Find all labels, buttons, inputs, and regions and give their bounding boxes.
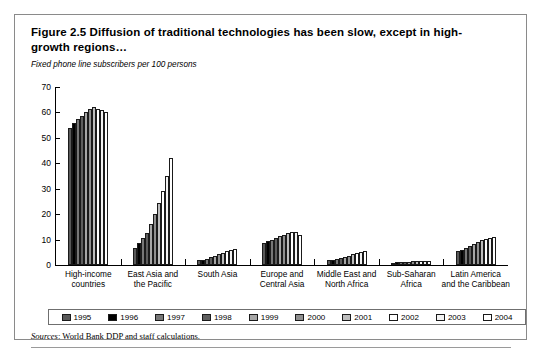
legend-item-2003[interactable]: 2003 — [436, 313, 466, 322]
bar[interactable] — [233, 249, 237, 265]
legend-item-2000[interactable]: 2000 — [295, 313, 325, 322]
page-title: Figure 2.5 Diffusion of traditional tech… — [31, 25, 501, 55]
legend-swatch-icon — [108, 314, 117, 321]
legend-swatch-icon — [483, 314, 492, 321]
legend-label: 2001 — [354, 313, 372, 322]
x-axis-label: South Asia — [180, 269, 254, 279]
y-axis-tick-40: 40 — [42, 158, 56, 168]
legend-label: 1995 — [74, 313, 92, 322]
legend-item-1997[interactable]: 1997 — [155, 313, 185, 322]
bar[interactable] — [492, 237, 496, 265]
bar[interactable] — [298, 235, 302, 265]
bar-group: South Asia — [185, 87, 250, 265]
bar-group: High-income countries — [56, 87, 121, 265]
y-axis-tick-50: 50 — [42, 133, 56, 143]
chart-legend: 1995199619971998199920002001200220032004 — [48, 309, 526, 325]
legend-swatch-icon — [342, 314, 351, 321]
chart-axes: 010203040506070 High-income countriesEas… — [55, 87, 508, 266]
y-axis-tick-60: 60 — [42, 107, 56, 117]
legend-swatch-icon — [389, 314, 398, 321]
legend-item-1995[interactable]: 1995 — [62, 313, 92, 322]
legend-swatch-icon — [62, 314, 71, 321]
legend-item-2002[interactable]: 2002 — [389, 313, 419, 322]
legend-swatch-icon — [202, 314, 211, 321]
bar-group: Latin America and the Caribbean — [443, 87, 508, 265]
legend-swatch-icon — [436, 314, 445, 321]
figure-card: Figure 2.5 Diffusion of traditional tech… — [14, 14, 527, 340]
x-axis-label: Latin America and the Caribbean — [439, 269, 513, 289]
x-axis-label: Middle East and North Africa — [310, 269, 384, 289]
chart-plot-area: 010203040506070 High-income countriesEas… — [31, 73, 513, 303]
source-label: Sources — [31, 331, 58, 341]
y-axis-unit-label: Fixed phone line subscribers per 100 per… — [31, 60, 197, 69]
bar-group: Europe and Central Asia — [250, 87, 315, 265]
legend-label: 1999 — [261, 313, 279, 322]
legend-label: 2002 — [401, 313, 419, 322]
bar[interactable] — [104, 112, 108, 265]
legend-swatch-icon — [155, 314, 164, 321]
legend-label: 1996 — [120, 313, 138, 322]
x-axis-label: East Asia and the Pacific — [116, 269, 190, 289]
source-text: : World Bank DDP and staff calculations. — [58, 331, 200, 341]
bar[interactable] — [363, 251, 367, 265]
legend-label: 1998 — [214, 313, 232, 322]
bar-group: East Asia and the Pacific — [121, 87, 186, 265]
y-axis-tick-70: 70 — [42, 82, 56, 92]
bar-group: Sub-Saharan Africa — [379, 87, 444, 265]
y-axis-tick-20: 20 — [42, 209, 56, 219]
y-axis-tick-10: 10 — [42, 235, 56, 245]
legend-label: 2000 — [307, 313, 325, 322]
x-axis-label: Europe and Central Asia — [245, 269, 319, 289]
legend-label: 2003 — [448, 313, 466, 322]
bar[interactable] — [169, 158, 173, 265]
legend-swatch-icon — [249, 314, 258, 321]
y-axis-tick-30: 30 — [42, 184, 56, 194]
legend-item-2001[interactable]: 2001 — [342, 313, 372, 322]
legend-label: 2004 — [495, 313, 513, 322]
legend-label: 1997 — [167, 313, 185, 322]
bar[interactable] — [427, 261, 431, 265]
bar-group: Middle East and North Africa — [314, 87, 379, 265]
legend-item-2004[interactable]: 2004 — [483, 313, 513, 322]
x-axis-label: Sub-Saharan Africa — [374, 269, 448, 289]
divider — [31, 347, 511, 348]
source-note: Sources: World Bank DDP and staff calcul… — [31, 331, 200, 341]
legend-item-1999[interactable]: 1999 — [249, 313, 279, 322]
legend-item-1998[interactable]: 1998 — [202, 313, 232, 322]
x-axis-label: High-income countries — [51, 269, 125, 289]
legend-swatch-icon — [295, 314, 304, 321]
bar-groups: High-income countriesEast Asia and the P… — [56, 87, 508, 265]
legend-item-1996[interactable]: 1996 — [108, 313, 138, 322]
